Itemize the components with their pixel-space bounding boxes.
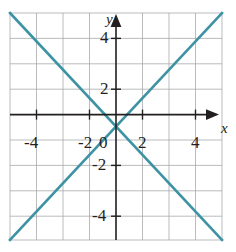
coordinate-plane-figure: -4 -2 2 4 4 2 -2 -4 0 y x <box>0 0 236 252</box>
y-tick-label-neg2: -2 <box>92 156 106 173</box>
x-tick-label-neg2: -2 <box>78 134 92 151</box>
y-tick-label-pos4: 4 <box>100 29 109 46</box>
origin-label: 0 <box>99 134 108 151</box>
y-tick-label-neg4: -4 <box>92 207 106 224</box>
graph-canvas <box>0 0 236 252</box>
x-axis-label: x <box>221 121 228 136</box>
x-tick-label-neg4: -4 <box>24 134 38 151</box>
axis-arrowheads <box>111 14 219 120</box>
x-axis-arrow <box>206 109 219 120</box>
y-tick-label-pos2: 2 <box>100 80 109 97</box>
y-axis-label: y <box>106 12 113 27</box>
x-tick-label-pos4: 4 <box>191 134 200 151</box>
x-tick-label-pos2: 2 <box>138 134 147 151</box>
